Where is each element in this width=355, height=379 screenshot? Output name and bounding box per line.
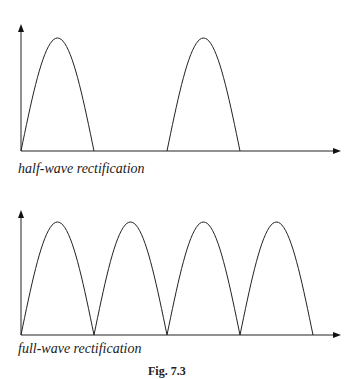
half-wave-label: half-wave rectification: [18, 161, 145, 177]
wave-pulse: [94, 222, 167, 335]
wave-pulse: [21, 222, 94, 335]
y-axis-arrow-icon: [18, 24, 24, 32]
figure-caption: Fig. 7.3: [148, 364, 186, 379]
wave-pulse: [167, 38, 240, 151]
full-wave-label: full-wave rectification: [18, 341, 142, 357]
x-axis-arrow-icon: [333, 148, 341, 154]
y-axis-arrow-icon: [18, 210, 24, 218]
x-axis-arrow-icon: [333, 332, 341, 338]
full-wave-plot: [18, 210, 341, 338]
wave-pulse: [21, 38, 94, 151]
wave-pulse: [167, 222, 240, 335]
half-wave-plot: [18, 24, 341, 154]
wave-pulse: [240, 222, 313, 335]
